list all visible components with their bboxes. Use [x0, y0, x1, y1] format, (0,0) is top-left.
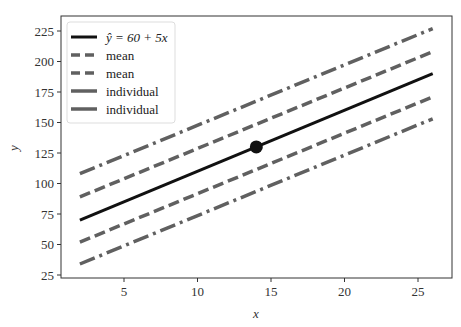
x-tick-label: 5: [121, 284, 128, 299]
legend-label: individual: [106, 102, 159, 117]
y-tick-label: 200: [35, 54, 55, 69]
y-axis-label: y: [6, 145, 21, 153]
y-tick-label: 150: [35, 115, 55, 130]
y-tick-label: 225: [35, 24, 55, 39]
x-axis-label: x: [252, 306, 259, 321]
y-axis-ticks: 255075100125150175200225: [35, 24, 62, 283]
legend: ŷ = 60 + 5xmeanmeanindividualindividual: [67, 22, 175, 123]
legend-label: individual: [106, 84, 159, 99]
x-tick-label: 10: [191, 284, 204, 299]
regression-chart: 510152025 255075100125150175200225 x y ŷ…: [0, 0, 461, 327]
x-tick-label: 15: [265, 284, 278, 299]
x-tick-label: 25: [412, 284, 425, 299]
points-layer: [250, 140, 263, 153]
legend-label: mean: [106, 66, 135, 81]
y-tick-label: 25: [41, 268, 54, 283]
x-tick-label: 20: [338, 284, 351, 299]
y-tick-label: 50: [41, 237, 54, 252]
y-tick-label: 75: [41, 207, 54, 222]
y-tick-label: 175: [35, 85, 55, 100]
mean-point-marker: [250, 140, 263, 153]
legend-label: mean: [106, 48, 135, 63]
y-tick-label: 125: [35, 146, 55, 161]
y-tick-label: 100: [35, 176, 55, 191]
legend-label: ŷ = 60 + 5x: [104, 30, 168, 45]
x-axis-ticks: 510152025: [121, 278, 425, 299]
